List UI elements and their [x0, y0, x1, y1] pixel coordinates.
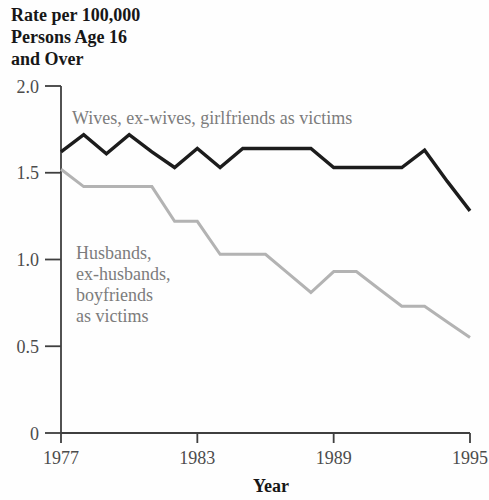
x-tick-label: 1983 — [179, 448, 215, 468]
y-tick-label: 1.0 — [17, 250, 40, 270]
y-axis-title-line-2: Persons Age 16 — [11, 27, 127, 47]
y-tick-label: 0 — [30, 424, 39, 444]
x-tick-label: 1995 — [452, 448, 488, 468]
y-tick-label: 2.0 — [17, 77, 40, 97]
wives-series-line — [61, 135, 470, 211]
y-tick-label: 1.5 — [17, 163, 40, 183]
y-axis-title-line-3: and Over — [11, 49, 84, 69]
line-chart-figure: Rate per 100,000 Persons Age 16 and Over… — [0, 0, 489, 500]
y-tick-label: 0.5 — [17, 337, 40, 357]
husbands-series-label-line-4: as victims — [76, 306, 149, 326]
chart-canvas: Rate per 100,000 Persons Age 16 and Over… — [0, 0, 489, 500]
x-tick-label: 1977 — [43, 448, 79, 468]
husbands-series-label: Husbands, ex-husbands, boyfriends as vic… — [76, 243, 170, 326]
husbands-series-label-line-2: ex-husbands, — [76, 264, 170, 284]
y-axis-title: Rate per 100,000 Persons Age 16 and Over — [11, 5, 140, 69]
husbands-series-label-line-1: Husbands, — [76, 243, 152, 263]
x-tick-label: 1989 — [316, 448, 352, 468]
y-axis-title-line-1: Rate per 100,000 — [11, 5, 140, 25]
husbands-series-label-line-3: boyfriends — [76, 285, 153, 305]
wives-series-label: Wives, ex-wives, girlfriends as victims — [72, 108, 352, 128]
x-axis-title: Year — [253, 476, 289, 496]
